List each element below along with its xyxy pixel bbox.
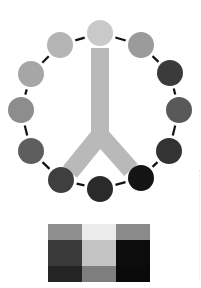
color-swatch [116, 240, 150, 266]
ring-connector [25, 89, 26, 94]
stem-path [70, 48, 131, 172]
color-swatch [82, 266, 116, 282]
ring-connector [43, 162, 50, 169]
edge-marks [199, 170, 201, 280]
ring-node-circle [156, 138, 182, 164]
ring-connector [25, 126, 27, 136]
ring-connector [75, 38, 84, 41]
color-swatch [48, 224, 82, 240]
color-swatch [48, 240, 82, 266]
ring-connector [173, 126, 175, 136]
ring-connector [77, 184, 85, 186]
ring-connector [174, 89, 175, 95]
y-stem [70, 48, 131, 172]
ring-connector [153, 56, 159, 62]
color-swatch [82, 224, 116, 240]
color-swatch [82, 240, 116, 266]
ring-connector [115, 37, 125, 40]
ring-connector [42, 56, 48, 62]
ring-connector [153, 162, 158, 167]
ring-node-circle [8, 97, 34, 123]
ring-node-circle [157, 60, 183, 86]
peace-ring-diagram [0, 0, 201, 210]
color-swatch [116, 224, 150, 240]
ring-node-circle [128, 32, 154, 58]
ring-connector [115, 182, 125, 185]
ring-node-circle [166, 97, 192, 123]
ring-node-circle [87, 20, 113, 46]
color-swatch [48, 266, 82, 282]
swatch-grid [48, 224, 150, 282]
ring-node-circle [87, 176, 113, 202]
ring-node-circle [18, 61, 44, 87]
ring-node-circle [128, 165, 154, 191]
ring-node-circle [18, 138, 44, 164]
ring-node-circle [47, 32, 73, 58]
ring-node-circle [48, 167, 74, 193]
color-swatch [116, 266, 150, 282]
